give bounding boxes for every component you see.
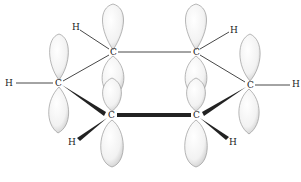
p-orbital-lobe-c6-up: [187, 78, 206, 111]
p-orbital-lobe-c4-up: [240, 34, 260, 81]
atom-h2: H: [5, 78, 13, 88]
atom-c4: C: [247, 80, 254, 90]
p-orbital-lobe-c2-up: [185, 4, 206, 50]
atom-c3: C: [55, 78, 62, 88]
p-orbital-lobe-c3-down: [49, 87, 69, 133]
bond-c2-h4: [200, 32, 229, 49]
atom-h6: H: [229, 137, 237, 147]
atom-h1: H: [72, 22, 80, 32]
atom-c6: C: [193, 110, 200, 120]
p-orbital-lobe-c4-down: [239, 89, 259, 134]
p-orbital-lobe-c5-down: [101, 120, 124, 167]
atom-c1: C: [110, 47, 117, 57]
atom-h5: H: [292, 79, 300, 89]
p-orbital-lobe-c6-down: [185, 120, 208, 167]
thick-bond-c5-c6: [117, 113, 191, 117]
atom-c2: C: [193, 47, 200, 57]
atom-h3: H: [68, 137, 76, 147]
p-orbital-lobe-c1-up: [102, 4, 123, 50]
p-orbital-lobe-c3-up: [50, 34, 69, 80]
atom-h4: H: [230, 25, 238, 35]
cyclohexene-orbital-diagram: C C C C C C H H H H H H: [0, 0, 301, 182]
p-orbital-lobe-c5-up: [103, 78, 122, 111]
atom-c5: C: [108, 110, 115, 120]
